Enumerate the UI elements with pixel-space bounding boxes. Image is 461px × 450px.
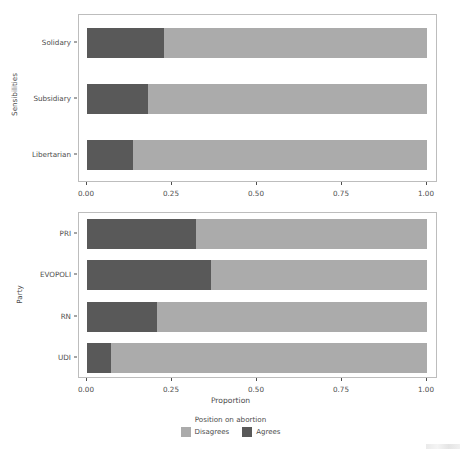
bar-segment-agrees — [87, 84, 148, 114]
bar-segment-agrees — [87, 219, 196, 249]
y-tick-label-libertarian: Libertarian — [32, 150, 71, 159]
bar-segment-agrees — [87, 28, 164, 58]
render-artifact — [426, 444, 460, 449]
bar-row — [87, 302, 427, 332]
y-axis-title-party: Party — [15, 265, 24, 325]
legend-item-agrees[interactable]: Agrees — [242, 427, 280, 437]
legend: Position on abortion DisagreesAgrees — [0, 415, 461, 437]
x-tick-label: 0.75 — [333, 189, 349, 198]
y-tick-label-pri: PRI — [60, 228, 71, 237]
x-tick-label: 0.50 — [248, 189, 264, 198]
y-tick-mark — [74, 315, 77, 316]
bar-segment-disagrees — [133, 140, 427, 170]
bar-row — [87, 28, 427, 58]
bar-segment-agrees — [87, 140, 133, 170]
bar-segment-agrees — [87, 260, 211, 290]
x-tick-label: 1.00 — [418, 189, 434, 198]
y-tick-label-subsidiary: Subsidiary — [33, 94, 71, 103]
x-tick-mark — [86, 378, 87, 381]
x-tick-mark — [171, 182, 172, 185]
bar-segment-disagrees — [196, 219, 427, 249]
plot-area-sensibilities — [79, 15, 436, 181]
y-tick-mark — [74, 357, 77, 358]
panel-sensibilities — [78, 14, 437, 182]
legend-title: Position on abortion — [0, 415, 461, 424]
y-tick-mark — [74, 98, 77, 99]
y-tick-mark — [74, 154, 77, 155]
x-tick-mark — [341, 182, 342, 185]
x-tick-mark — [426, 182, 427, 185]
x-tick-label: 0.25 — [163, 189, 179, 198]
bar-segment-agrees — [87, 343, 111, 373]
bar-segment-agrees — [87, 302, 157, 332]
y-tick-mark — [74, 274, 77, 275]
bar-segment-disagrees — [111, 343, 427, 373]
y-tick-mark — [74, 42, 77, 43]
x-tick-mark — [426, 378, 427, 381]
panel-party — [78, 212, 437, 378]
y-tick-label-udi: UDI — [58, 353, 71, 362]
bar-segment-disagrees — [211, 260, 427, 290]
x-tick-label: 0.50 — [248, 385, 264, 394]
x-tick-mark — [256, 182, 257, 185]
legend-label: Disagrees — [195, 428, 230, 436]
x-tick-label: 0.00 — [78, 189, 94, 198]
legend-swatch-disagrees — [181, 427, 191, 437]
bar-row — [87, 260, 427, 290]
x-tick-mark — [341, 378, 342, 381]
chart-figure: Sensibilities SolidarySubsidiaryLibertar… — [0, 0, 461, 450]
plot-area-party — [79, 213, 436, 377]
bar-row — [87, 343, 427, 373]
y-tick-label-evopoli: EVOPOLI — [40, 270, 71, 279]
x-tick-label: 0.00 — [78, 385, 94, 394]
x-axis-title: Proportion — [0, 396, 461, 405]
legend-label: Agrees — [256, 428, 280, 436]
x-tick-mark — [171, 378, 172, 381]
bar-row — [87, 219, 427, 249]
bar-row — [87, 140, 427, 170]
y-tick-label-solidary: Solidary — [42, 38, 71, 47]
y-axis-title-sensibilities: Sensibilities — [10, 65, 19, 125]
x-tick-label: 0.25 — [163, 385, 179, 394]
x-tick-label: 1.00 — [418, 385, 434, 394]
x-tick-mark — [256, 378, 257, 381]
bar-row — [87, 84, 427, 114]
x-tick-mark — [86, 182, 87, 185]
bar-segment-disagrees — [157, 302, 427, 332]
bar-segment-disagrees — [148, 84, 427, 114]
legend-item-disagrees[interactable]: Disagrees — [181, 427, 230, 437]
y-tick-mark — [74, 232, 77, 233]
y-tick-label-rn: RN — [61, 311, 71, 320]
x-tick-label: 0.75 — [333, 385, 349, 394]
bar-segment-disagrees — [164, 28, 428, 58]
legend-keys: DisagreesAgrees — [0, 427, 461, 437]
legend-swatch-agrees — [242, 427, 252, 437]
